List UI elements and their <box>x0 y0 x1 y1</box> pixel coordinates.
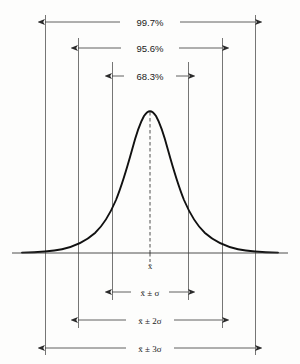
dimension-95-6-label: 95.6% <box>137 43 164 54</box>
dimension-2-sigma-label: x̄ ± 2σ <box>138 316 161 326</box>
distribution-chart-canvas: 99.7% 95.6% 68.3% x̄ x̄ ± σ <box>0 0 300 364</box>
dimension-95-6-percent: 95.6% <box>78 43 222 54</box>
dimension-68-3-percent: 68.3% <box>112 71 188 82</box>
dimension-3-sigma-label: x̄ ± 3σ <box>138 344 161 354</box>
dimension-68-3-label: 68.3% <box>137 71 164 82</box>
dimension-99-7-percent: 99.7% <box>45 17 255 28</box>
normal-distribution-figure: 99.7% 95.6% 68.3% x̄ x̄ ± σ <box>0 0 300 364</box>
dimension-1-sigma-label: x̄ ± σ <box>141 288 160 298</box>
dimension-x-bar-plus-minus-2-sigma: x̄ ± 2σ <box>78 316 222 326</box>
mean-label: x̄ <box>148 261 153 271</box>
dimension-99-7-label: 99.7% <box>137 17 164 28</box>
dimension-x-bar-plus-minus-3-sigma: x̄ ± 3σ <box>45 344 255 354</box>
dimension-x-bar-plus-minus-sigma: x̄ ± σ <box>112 288 188 298</box>
